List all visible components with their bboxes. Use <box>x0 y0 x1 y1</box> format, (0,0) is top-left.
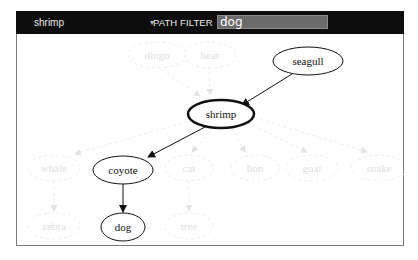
node-dog[interactable]: dog <box>115 221 132 233</box>
node-snake[interactable]: snake <box>366 162 391 174</box>
node-coyote[interactable]: coyote <box>108 164 137 176</box>
faded-nodes <box>28 42 405 239</box>
node-tree[interactable]: tree <box>181 220 198 232</box>
node-select-dropdown[interactable]: shrimp ▾ <box>34 16 154 29</box>
node-whale[interactable]: whale <box>41 162 67 174</box>
node-dingo[interactable]: dingo <box>144 49 170 61</box>
path-filter-label: PATH FILTER <box>153 16 213 29</box>
node-seagull[interactable]: seagull <box>292 55 323 67</box>
faded-edges <box>54 66 367 211</box>
node-cat[interactable]: cat <box>183 162 196 174</box>
node-lion[interactable]: lion <box>246 162 264 174</box>
toolbar: shrimp ▾ PATH FILTER dog <box>16 11 404 34</box>
selected-node-label: shrimp <box>34 17 64 28</box>
path-edges <box>123 74 292 212</box>
path-filter-input[interactable]: dog <box>217 15 328 29</box>
node-shrimp[interactable]: shrimp <box>206 108 237 120</box>
node-bear[interactable]: bear <box>201 49 220 61</box>
graph-canvas: dingo bear whale cat lion goat snake zeb… <box>16 34 404 246</box>
node-goat[interactable]: goat <box>303 162 322 174</box>
node-zebra[interactable]: zebra <box>42 220 66 232</box>
graph-svg: dingo bear whale cat lion goat snake zeb… <box>17 34 405 246</box>
